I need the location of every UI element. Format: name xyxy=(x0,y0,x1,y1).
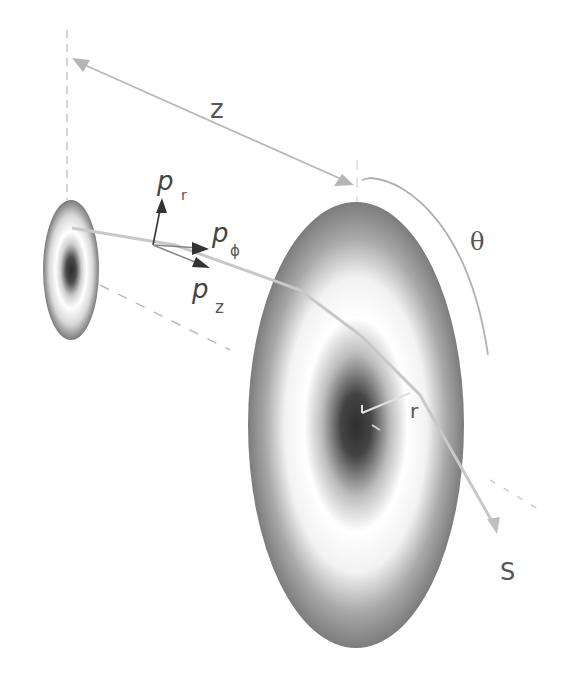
distance-label: z xyxy=(210,94,224,124)
momentum-vectors xyxy=(153,198,210,268)
momentum-z-subscript: z xyxy=(215,297,224,317)
beam-diagram: z θ p r p ϕ p z r S xyxy=(0,0,563,677)
momentum-phi-label: p xyxy=(211,218,229,248)
momentum-r-label: p xyxy=(156,166,174,196)
large-annular-aperture xyxy=(248,202,464,648)
small-annular-aperture xyxy=(43,200,99,340)
angle-label: θ xyxy=(470,228,484,256)
momentum-phi-subscript: ϕ xyxy=(230,242,240,260)
radius-label: r xyxy=(410,399,419,423)
screen-label: S xyxy=(500,558,515,586)
momentum-r-subscript: r xyxy=(181,187,187,203)
s-guide-dashed xyxy=(490,480,540,510)
guide-dashed-line xyxy=(100,285,230,350)
momentum-z-label: p xyxy=(191,274,209,304)
